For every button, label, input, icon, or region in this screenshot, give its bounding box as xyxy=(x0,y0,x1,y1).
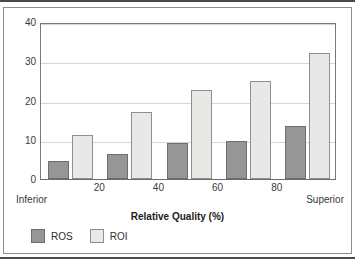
chart-card: 010203040 20406080 Inferior Superior Rel… xyxy=(3,7,352,254)
bar-roi-2 xyxy=(191,90,212,179)
legend-item-ros[interactable]: ROS xyxy=(31,229,73,243)
gridline xyxy=(41,63,335,64)
bar-roi-3 xyxy=(250,81,271,179)
y-axis-labels: 010203040 xyxy=(6,23,36,180)
x-endpoint-right-label: Superior xyxy=(306,194,344,205)
y-tick-label: 10 xyxy=(10,136,36,146)
x-axis-title: Relative Quality (%) xyxy=(4,211,351,222)
bar-ros-1 xyxy=(107,154,128,179)
y-tick-label: 30 xyxy=(10,57,36,67)
legend-swatch-ros-icon xyxy=(31,229,45,243)
bar-ros-3 xyxy=(226,141,247,179)
bar-ros-2 xyxy=(167,143,188,180)
bar-roi-1 xyxy=(131,112,152,179)
bar-ros-0 xyxy=(48,161,69,179)
legend-label: ROS xyxy=(51,231,73,242)
bar-roi-0 xyxy=(72,135,93,179)
legend-swatch-roi-icon xyxy=(90,229,104,243)
gridline xyxy=(41,24,335,25)
x-tick-label: 60 xyxy=(212,182,223,193)
x-tick-label: 40 xyxy=(153,182,164,193)
y-tick-label: 40 xyxy=(10,18,36,28)
bar-roi-4 xyxy=(309,53,330,179)
x-tick-label: 80 xyxy=(271,182,282,193)
chart-legend: ROSROI xyxy=(31,229,127,243)
x-axis-endpoints: Inferior Superior xyxy=(16,194,346,208)
x-endpoint-left-label: Inferior xyxy=(16,194,47,205)
x-axis-labels: 20406080 xyxy=(40,181,336,195)
legend-label: ROI xyxy=(110,231,128,242)
plot-area xyxy=(40,23,336,180)
chart-figure: 010203040 20406080 Inferior Superior Rel… xyxy=(0,0,355,259)
gridline xyxy=(41,103,335,104)
y-tick-label: 20 xyxy=(10,97,36,107)
bar-ros-4 xyxy=(285,126,306,179)
y-tick-label: 0 xyxy=(10,175,36,185)
legend-item-roi[interactable]: ROI xyxy=(90,229,128,243)
x-tick-label: 20 xyxy=(94,182,105,193)
